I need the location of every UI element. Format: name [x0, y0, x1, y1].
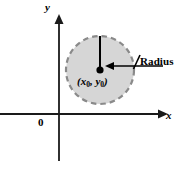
radius-annotation-label: Radius [140, 56, 174, 67]
circle-coordinate-diagram: y x 0 Radius (x0, y0) [0, 0, 178, 173]
circle-center-coordinate-label: (x0, y0) [77, 76, 108, 87]
origin-label: 0 [38, 117, 44, 128]
center-x-subscript: 0 [86, 80, 90, 89]
x-axis-label: x [166, 110, 172, 121]
circle-center-dot [96, 66, 103, 73]
y-axis-label: y [45, 2, 50, 13]
center-y-subscript: 0 [100, 80, 104, 89]
y-axis-arrowhead [55, 14, 64, 24]
